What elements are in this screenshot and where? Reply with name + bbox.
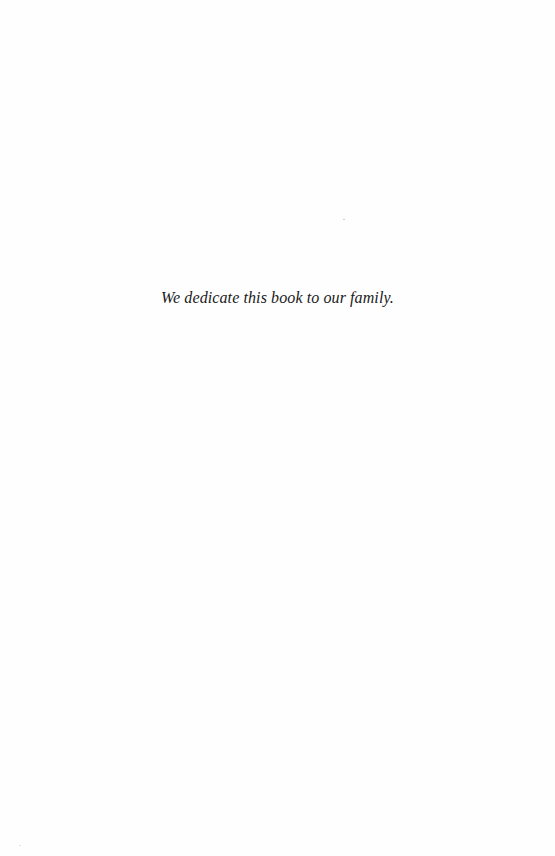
print-speck	[343, 219, 345, 220]
print-speck	[19, 845, 21, 846]
dedication-text: We dedicate this book to our family.	[0, 289, 555, 307]
book-page: We dedicate this book to our family.	[0, 0, 555, 856]
